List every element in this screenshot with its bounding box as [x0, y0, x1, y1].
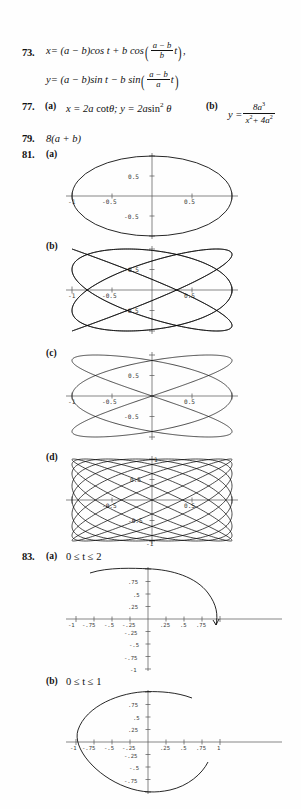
- xtick-label--0.75: -.75: [82, 622, 95, 628]
- axes: [66, 246, 238, 334]
- plot-81d: -0.5 0.5 1 0.5 -0.5 -1: [62, 453, 242, 547]
- ytick-label--0.75: -.75: [124, 655, 137, 661]
- eq77a-sin: sin: [148, 103, 160, 114]
- eq73-x-frac-bot: b: [151, 50, 174, 60]
- exercise-73-line-x: x= (a − b)cos t + b cos(a − bbt),: [46, 41, 186, 63]
- eq73-x-fraction: a − bb: [151, 41, 174, 60]
- ytick-label--0.25: -.25: [124, 753, 137, 759]
- ytick-label-0.75: .75: [128, 579, 138, 585]
- xtick-label-0.5: 0.5: [184, 398, 195, 405]
- eq77a-exponent: 2: [160, 101, 164, 109]
- right-paren: ): [175, 72, 179, 92]
- exercise-77-part-b-label: (b): [206, 101, 218, 111]
- exercise-81-part-a-label: (a): [46, 149, 57, 159]
- exercise-73: 73.: [22, 42, 35, 60]
- xtick-label--1: -1: [68, 398, 76, 405]
- xtick-label--1: -1: [68, 292, 76, 299]
- plot-83a: -1 -.75 -.5 -.25 .25 .5 .75 .75 .5 .25 -…: [60, 563, 288, 675]
- ytick-label-0.25: .25: [128, 727, 138, 733]
- eq73-y-tail: t: [171, 74, 174, 85]
- eq73-x-frac-top: a − b: [151, 41, 174, 50]
- xtick-label-0.5: .5: [180, 622, 187, 628]
- exercise-83-part-b-label: (b): [46, 676, 58, 686]
- xtick-label-0.5: 0.5: [184, 198, 195, 205]
- exercise-77-part-a: x = 2a cotθ; y = 2asin2 θ: [66, 101, 171, 114]
- xtick-label-1: 1: [217, 745, 220, 751]
- plot-81b-svg: -1 -0.5 0.5 0.5 -0.5: [62, 243, 242, 337]
- plot-81c-svg: -1 -0.5 0.5 0.5 -0.5: [62, 349, 242, 443]
- ytick-label--0.5: -.5: [129, 765, 139, 771]
- eq73-y-frac-bot: a: [147, 79, 170, 89]
- exercise-79-answer: 8(a + b): [46, 133, 81, 144]
- ytick-label--0.75: -.75: [124, 778, 137, 784]
- eq77b-denominator: x2+ 4a2: [243, 113, 274, 126]
- xtick-label--0.25: -.25: [122, 745, 135, 751]
- ytick-label--0.5: -0.5: [124, 213, 139, 220]
- xtick-label--0.75: -.75: [82, 745, 95, 751]
- eq77b-den-rest: + 4a: [252, 115, 269, 125]
- right-paren: ): [178, 43, 182, 63]
- answer-key-page: 73. x= (a − b)cos t + b cos(a − bbt), y=…: [0, 0, 301, 809]
- xtick-label--0.5: -0.5: [102, 292, 117, 299]
- eq73-y-rhs: = (a − b)sin t − b sin: [51, 74, 141, 85]
- xtick-label--0.5: -.5: [104, 745, 114, 751]
- axes: [66, 153, 238, 239]
- xtick-label--1: -1: [68, 622, 75, 628]
- xtick-label-0.5: .5: [180, 745, 187, 751]
- ytick-label-0.25: .25: [128, 604, 138, 610]
- ytick-label-0.5: .5: [133, 715, 140, 721]
- eq73-x-rhs: = (a − b)cos t + b cos: [51, 45, 144, 56]
- eq73-y-frac-top: a − b: [147, 70, 170, 79]
- xtick-label--0.25: -.25: [122, 622, 135, 628]
- eq77b-lhs: y =: [228, 109, 242, 120]
- ytick-label-0.5: 0.5: [128, 372, 139, 379]
- eq73-y-fraction: a − ba: [147, 70, 170, 89]
- curve-83a-arrowhead: [213, 619, 219, 625]
- plot-81d-svg: -0.5 0.5 1 0.5 -0.5 -1: [62, 453, 242, 547]
- eq73-x-tail: t: [174, 45, 177, 56]
- eq77b-num-exp: 3: [262, 101, 265, 107]
- plot-83b: -1 -.75 -.5 -.25 .25 .5 .75 1 .75 .5 .25…: [60, 686, 288, 798]
- eq73-x-end: ,: [183, 45, 186, 56]
- exercise-81-number: 81.: [22, 149, 35, 160]
- eq77a-theta2: θ: [166, 103, 171, 114]
- xtick-label--0.5: -0.5: [102, 398, 117, 405]
- eq77a-seg2: y = 2a: [120, 103, 148, 114]
- ytick-label-0.5: .5: [133, 592, 140, 598]
- plot-83b-svg: -1 -.75 -.5 -.25 .25 .5 .75 1 .75 .5 .25…: [60, 686, 288, 798]
- exercise-81-part-c-label: (c): [46, 348, 57, 358]
- xtick-label-0.75: .75: [196, 745, 206, 751]
- exercise-83-part-a-domain: 0 ≤ t ≤ 2: [66, 551, 101, 562]
- eq77b-den-a-exp: 2: [270, 114, 273, 120]
- left-paren: (: [142, 72, 146, 92]
- ytick-label--0.5: -.5: [129, 642, 139, 648]
- plot-81a-svg: -1 -0.5 0.5 0.5 -0.5: [62, 150, 242, 242]
- exercise-77-part-b: y = 8a3 x2+ 4a2: [228, 101, 276, 125]
- eq77a-seg1: x = 2a: [66, 103, 94, 114]
- left-paren: (: [145, 43, 149, 63]
- xtick-label-0.75: .75: [196, 622, 206, 628]
- xtick-label-0.25: .25: [160, 622, 170, 628]
- exercise-73-line-y: y= (a − b)sin t − b sin(a − bat): [46, 70, 179, 92]
- eq77a-cot: cot: [96, 103, 109, 114]
- ytick-label--1: -1: [146, 540, 154, 547]
- eq77a-theta1: θ;: [109, 103, 118, 114]
- exercise-77-part-a-label: (a): [45, 101, 56, 111]
- plot-83a-svg: -1 -.75 -.5 -.25 .25 .5 .75 .75 .5 .25 -…: [60, 563, 288, 675]
- xtick-label--0.5: -0.5: [102, 198, 117, 205]
- exercise-79-number: 79.: [22, 133, 35, 144]
- ytick-label-0.5: 0.5: [128, 173, 139, 180]
- xtick-label--1: -1: [70, 745, 77, 751]
- exercise-77-number: 77.: [22, 101, 35, 112]
- plot-81c: -1 -0.5 0.5 0.5 -0.5: [62, 349, 242, 443]
- ytick-label--0.25: -.25: [124, 630, 137, 636]
- exercise-83-part-a-label: (a): [46, 551, 57, 561]
- eq77b-fraction: 8a3 x2+ 4a2: [243, 101, 274, 125]
- eq77b-numerator: 8a3: [243, 101, 274, 113]
- ytick-label--0.5: -0.5: [124, 307, 139, 314]
- xtick-label--0.5: -.5: [104, 622, 114, 628]
- exercise-83-number: 83.: [22, 551, 35, 562]
- plot-81b: -1 -0.5 0.5 0.5 -0.5: [62, 243, 242, 337]
- plot-81a: -1 -0.5 0.5 0.5 -0.5: [62, 150, 242, 242]
- exercise-81-part-d-label: (d): [46, 452, 58, 462]
